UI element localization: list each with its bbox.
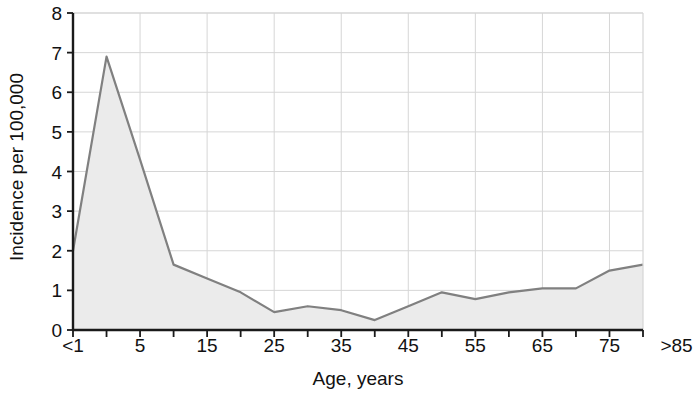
x-tick-label: 15 (197, 336, 218, 355)
x-tick-label: <1 (62, 336, 84, 355)
x-axis-tick-labels: <1515253545556575>85 (0, 336, 665, 364)
x-tick-label: 65 (532, 336, 553, 355)
x-tick-label: 5 (135, 336, 146, 355)
x-tick-label: 75 (599, 336, 620, 355)
x-tick-label: 25 (264, 336, 285, 355)
x-tick-label: 55 (465, 336, 486, 355)
x-tick-label: 35 (331, 336, 352, 355)
x-axis-title: Age, years (73, 368, 643, 390)
x-tick-label: >85 (660, 336, 692, 355)
x-tick-label: 45 (398, 336, 419, 355)
